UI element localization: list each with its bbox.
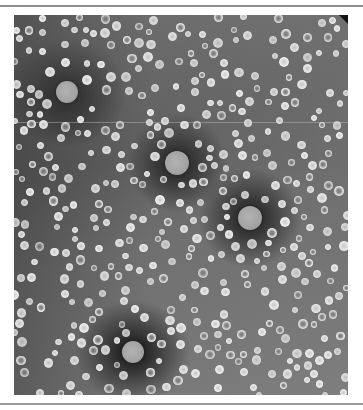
small-particle: [294, 364, 301, 371]
small-particle: [54, 224, 60, 230]
small-particle: [205, 350, 215, 360]
small-particle: [27, 273, 37, 283]
small-particle: [165, 316, 174, 325]
small-particle: [114, 362, 120, 368]
small-particle: [146, 40, 155, 49]
small-particle: [193, 121, 201, 129]
small-particle: [231, 27, 237, 33]
small-particle: [37, 142, 44, 149]
small-particle: [90, 214, 98, 222]
small-particle: [200, 332, 208, 340]
small-particle: [220, 174, 227, 181]
small-particle: [75, 130, 81, 136]
small-particle: [326, 89, 334, 97]
small-particle: [288, 159, 294, 165]
small-particle: [154, 123, 161, 130]
small-particle: [118, 151, 125, 158]
small-particle: [268, 161, 277, 170]
small-particle: [252, 154, 258, 160]
small-particle: [168, 258, 176, 266]
small-particle: [173, 376, 182, 385]
small-particle: [103, 219, 110, 226]
small-particle: [324, 33, 332, 41]
small-particle: [290, 243, 298, 251]
small-particle: [82, 75, 91, 84]
small-particle: [91, 265, 97, 271]
large-particle: [56, 81, 78, 103]
small-particle: [202, 43, 209, 50]
small-particle: [89, 106, 95, 112]
small-particle: [106, 72, 116, 82]
small-particle: [103, 180, 109, 186]
small-particle: [310, 249, 316, 255]
small-particle: [188, 245, 195, 252]
small-particle: [20, 368, 29, 377]
small-particle: [176, 323, 186, 333]
small-particle: [100, 28, 110, 38]
large-particle: [238, 206, 262, 230]
small-particle: [96, 364, 103, 371]
small-particle: [234, 139, 243, 148]
small-particle: [245, 97, 254, 106]
small-particle: [26, 188, 34, 196]
small-particle: [151, 208, 158, 215]
small-particle: [340, 389, 347, 395]
small-particle: [298, 252, 306, 260]
small-particle: [37, 303, 45, 311]
small-particle: [27, 98, 35, 106]
small-particle: [269, 300, 279, 310]
small-particle: [291, 268, 301, 278]
small-particle: [270, 88, 278, 96]
small-particle: [156, 358, 162, 364]
small-particle: [296, 235, 303, 242]
small-particle: [236, 254, 245, 263]
corner-mark: [339, 15, 348, 24]
small-particle: [217, 224, 223, 230]
small-particle: [42, 99, 52, 109]
small-particle: [111, 180, 119, 188]
small-particle: [231, 175, 238, 182]
small-particle: [301, 152, 308, 159]
small-particle: [112, 21, 122, 31]
small-particle: [335, 292, 342, 299]
small-particle: [280, 382, 287, 389]
small-particle: [36, 389, 45, 395]
bottom-rule: [0, 403, 363, 405]
small-particle: [81, 39, 89, 47]
small-particle: [331, 264, 338, 271]
small-particle: [52, 350, 58, 356]
small-particle: [297, 141, 306, 150]
small-particle: [57, 134, 65, 142]
small-particle: [157, 140, 166, 149]
small-particle: [27, 85, 35, 93]
small-particle: [126, 237, 133, 244]
small-particle: [191, 88, 198, 95]
small-particle: [83, 27, 89, 33]
small-particle: [327, 278, 334, 285]
small-particle: [305, 349, 315, 359]
small-particle: [206, 231, 215, 240]
small-particle: [254, 85, 261, 92]
small-particle: [88, 150, 94, 156]
small-particle: [58, 184, 67, 193]
small-particle: [159, 274, 168, 283]
small-particle: [322, 392, 328, 395]
small-particle: [89, 346, 98, 355]
small-particle: [318, 313, 326, 321]
small-particle: [104, 206, 111, 213]
small-particle: [43, 187, 50, 194]
small-particle: [313, 270, 321, 278]
electron-micrograph: Negative-stain electron micrograph showi…: [14, 15, 348, 395]
small-particle: [62, 206, 68, 212]
small-particle: [303, 53, 312, 62]
small-particle: [238, 108, 246, 116]
small-particle: [263, 251, 270, 258]
small-particle: [49, 173, 57, 181]
small-particle: [324, 135, 331, 142]
small-particle: [180, 121, 189, 130]
small-particle: [241, 191, 249, 199]
small-particle: [200, 287, 208, 295]
small-particle: [155, 60, 164, 69]
small-particle: [104, 384, 113, 393]
small-particle: [61, 290, 70, 299]
